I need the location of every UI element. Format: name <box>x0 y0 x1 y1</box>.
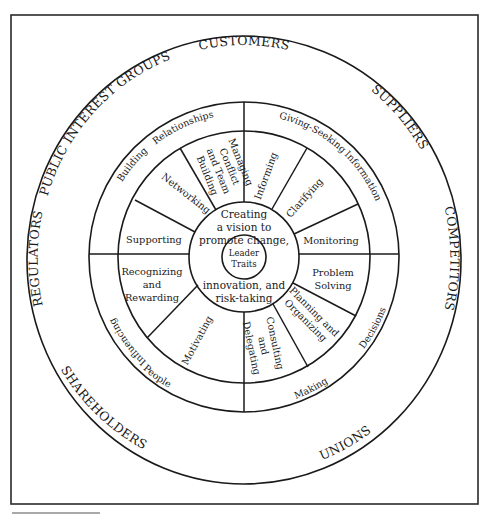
segment-monitoring: Monitoring <box>303 235 359 246</box>
segment-problem-solving: Problem Solving <box>312 267 354 291</box>
segment-supporting: Supporting <box>126 234 182 245</box>
segment-motivating: Motivating <box>179 314 214 367</box>
svg-text:Traits: Traits <box>231 259 256 269</box>
segment-planning-organizing: Planning and Organizing <box>279 285 342 348</box>
segment-recognizing-rewarding: Recognizing and Rewarding <box>121 266 182 303</box>
leadership-diagram: CUSTOMERS PUBLIC INTEREST GROUPS SUPPLIE… <box>0 0 492 515</box>
svg-text:Problem: Problem <box>312 267 354 278</box>
label-giving-seeking: Giving-Seeking <box>278 110 348 155</box>
label-information: Information <box>343 148 385 202</box>
svg-text:promote change,: promote change, <box>199 234 289 246</box>
spoke-clarifying-monitoring <box>294 204 358 234</box>
svg-text:risk-taking: risk-taking <box>215 292 272 304</box>
label-shareholders: SHAREHOLDERS <box>58 363 150 452</box>
label-customers: CUSTOMERS <box>197 33 291 53</box>
label-unions: UNIONS <box>317 422 374 463</box>
svg-text:Solving: Solving <box>315 280 352 291</box>
svg-text:Recognizing: Recognizing <box>121 266 182 277</box>
svg-text:a vision to: a vision to <box>217 221 272 233</box>
segment-clarifying: Clarifying <box>284 176 325 220</box>
label-regulators: REGULATORS <box>26 209 46 308</box>
svg-text:innovation, and: innovation, and <box>203 279 286 291</box>
spoke-networking-supporting <box>135 200 195 232</box>
label-influencing: Influencing <box>106 317 147 368</box>
segment-informing: Informing <box>252 151 279 201</box>
label-competitors: COMPETITORS <box>441 205 462 312</box>
segment-consulting-delegating: Consulting and Delegating <box>241 315 287 375</box>
segment-managing-conflict: Managing Conflict and Team Building <box>193 137 255 201</box>
svg-text:Rewarding: Rewarding <box>125 292 179 303</box>
center-leader-traits: Leader Traits <box>229 248 260 269</box>
svg-text:and: and <box>143 279 161 290</box>
svg-text:Creating: Creating <box>221 208 268 220</box>
svg-text:Leader: Leader <box>229 248 260 258</box>
label-suppliers: SUPPLIERS <box>369 81 432 152</box>
label-public-interest-groups: PUBLIC INTEREST GROUPS <box>36 48 172 198</box>
